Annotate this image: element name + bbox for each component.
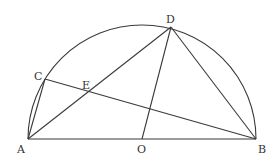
segment-OD: [142, 27, 171, 139]
label-D: D: [166, 13, 175, 26]
label-A: A: [16, 143, 26, 156]
segment-AD: [28, 27, 171, 139]
segment-AC: [28, 79, 45, 139]
label-E: E: [82, 79, 90, 92]
segment-BD: [171, 27, 256, 139]
label-O: O: [137, 143, 146, 156]
geometry-diagram: A O B D C E: [0, 0, 278, 165]
semicircle-arc: [28, 25, 256, 139]
segment-CB: [45, 79, 256, 139]
label-C: C: [34, 70, 42, 83]
label-B: B: [258, 143, 266, 156]
